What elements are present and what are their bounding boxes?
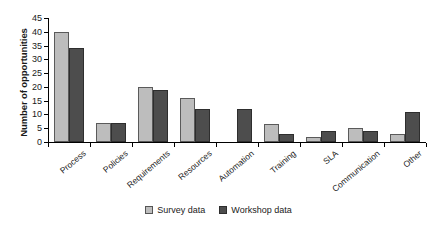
y-tick-label: 40 bbox=[6, 27, 42, 36]
bar-survey bbox=[96, 123, 111, 142]
legend-item: Workshop data bbox=[219, 205, 291, 215]
bar-survey bbox=[390, 134, 405, 142]
y-tick bbox=[44, 46, 48, 47]
y-tick-label: 35 bbox=[6, 41, 42, 50]
plot-area: 051015202530354045 ProcessPoliciesRequir… bbox=[48, 18, 426, 142]
bar-workshop bbox=[279, 134, 294, 142]
bar-survey bbox=[306, 137, 321, 143]
y-tick-label: 45 bbox=[6, 14, 42, 23]
y-tick bbox=[44, 73, 48, 74]
bar-workshop bbox=[69, 48, 84, 142]
y-tick-label: 30 bbox=[6, 55, 42, 64]
bar-survey bbox=[348, 128, 363, 142]
legend-swatch-workshop bbox=[219, 206, 227, 214]
bar-chart: Number of opportunities 0510152025303540… bbox=[0, 0, 437, 228]
bar-survey bbox=[138, 87, 153, 142]
x-axis-label: Automation bbox=[217, 149, 256, 184]
y-tick-label: 15 bbox=[6, 96, 42, 105]
bar-workshop bbox=[237, 109, 252, 142]
legend-label: Workshop data bbox=[231, 205, 291, 215]
y-tick-label: 10 bbox=[6, 110, 42, 119]
x-tick bbox=[90, 143, 91, 147]
bar-survey bbox=[54, 32, 69, 142]
bar-workshop bbox=[195, 109, 210, 142]
x-axis-label: SLA bbox=[322, 149, 340, 166]
bar-survey bbox=[180, 98, 195, 142]
y-tick-label: 20 bbox=[6, 82, 42, 91]
y-tick-label: 0 bbox=[6, 138, 42, 147]
y-tick bbox=[44, 32, 48, 33]
bar-workshop bbox=[363, 131, 378, 142]
y-tick-label: 25 bbox=[6, 69, 42, 78]
x-tick bbox=[384, 143, 385, 147]
x-tick bbox=[48, 143, 49, 147]
y-tick bbox=[44, 101, 48, 102]
bar-survey bbox=[264, 124, 279, 142]
x-axis-line bbox=[48, 142, 426, 143]
legend-item: Survey data bbox=[145, 205, 205, 215]
x-axis-label: Process bbox=[58, 149, 87, 176]
x-tick bbox=[216, 143, 217, 147]
y-tick bbox=[44, 114, 48, 115]
y-tick bbox=[44, 18, 48, 19]
y-tick bbox=[44, 128, 48, 129]
x-axis-label: Requirements bbox=[125, 149, 171, 190]
legend-label: Survey data bbox=[157, 205, 205, 215]
x-tick bbox=[300, 143, 301, 147]
bar-workshop bbox=[405, 112, 420, 142]
x-axis-label: Policies bbox=[102, 149, 130, 175]
legend-swatch-survey bbox=[145, 206, 153, 214]
x-axis-label: Training bbox=[269, 149, 298, 175]
y-tick bbox=[44, 59, 48, 60]
x-tick bbox=[426, 143, 427, 147]
x-tick bbox=[342, 143, 343, 147]
y-tick bbox=[44, 87, 48, 88]
x-tick bbox=[132, 143, 133, 147]
y-axis-line bbox=[48, 18, 49, 142]
bar-workshop bbox=[153, 90, 168, 142]
x-tick bbox=[258, 143, 259, 147]
bar-workshop bbox=[321, 131, 336, 142]
y-tick-label: 5 bbox=[6, 124, 42, 133]
x-axis-label: Resources bbox=[177, 149, 214, 182]
chart-legend: Survey dataWorkshop data bbox=[0, 205, 437, 215]
x-axis-label: Other bbox=[402, 149, 424, 170]
x-tick bbox=[174, 143, 175, 147]
bar-workshop bbox=[111, 123, 126, 142]
